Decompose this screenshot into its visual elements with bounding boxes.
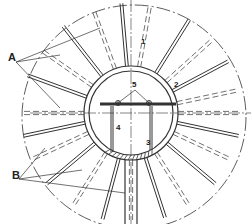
- leader-line-A: [16, 62, 60, 108]
- label-2: 2: [174, 81, 178, 89]
- solid-rib-line: [168, 142, 216, 182]
- solid-rib-line: [23, 121, 85, 134]
- crossbar: [100, 103, 176, 106]
- dashed-rib-line: [177, 92, 239, 105]
- leader-line-A: [16, 28, 100, 62]
- leader-line-B: [19, 148, 45, 179]
- solid-rib-line: [172, 60, 228, 90]
- solid-rib-line: [147, 157, 166, 217]
- dashed-rib-line: [74, 154, 107, 207]
- solid-rib-line: [155, 19, 188, 72]
- dashed-rib-line: [95, 9, 117, 68]
- leader-line-B: [19, 179, 125, 193]
- solid-rib-line: [104, 159, 120, 220]
- solid-rib-line: [157, 20, 190, 73]
- solid-rib-line: [64, 25, 103, 75]
- solid-rib-line: [144, 158, 163, 218]
- solid-rib-line: [46, 142, 94, 182]
- label-3: 3: [146, 139, 150, 147]
- solid-rib-line: [62, 27, 101, 77]
- dashed-rib-line: [138, 4, 149, 66]
- label-4: 4: [116, 124, 120, 132]
- solid-rib-line: [177, 121, 239, 134]
- label-5: 5: [132, 81, 136, 89]
- dashed-rib-line: [177, 89, 239, 102]
- label-A: A: [8, 52, 16, 63]
- label-1: 1: [141, 38, 145, 46]
- solid-rib-line: [173, 63, 229, 93]
- solid-rib-line: [28, 74, 87, 96]
- solid-rib-line: [101, 158, 117, 219]
- dashed-rib-line: [141, 5, 152, 67]
- solid-rib-line: [123, 3, 128, 66]
- dashed-rib-line: [42, 49, 94, 85]
- solid-rib-line: [27, 77, 86, 99]
- solid-rib-line: [24, 124, 86, 137]
- label-B: B: [12, 170, 20, 181]
- leader-line-B: [19, 170, 82, 179]
- dashed-rib-line: [92, 10, 114, 69]
- solid-rib-line: [177, 124, 239, 137]
- solid-rib-line: [120, 4, 125, 67]
- dashed-rib-line: [155, 154, 188, 207]
- cross-section-diagram: [0, 0, 251, 224]
